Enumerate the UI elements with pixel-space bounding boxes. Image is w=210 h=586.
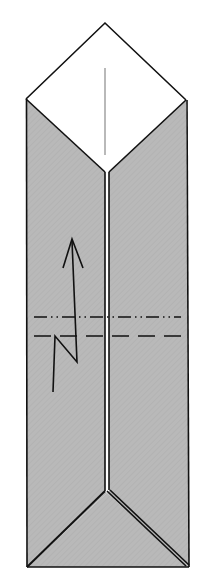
left-panel [26,99,107,567]
right-panel [107,100,189,567]
left-edge [27,99,28,567]
origami-diagram [0,0,210,586]
